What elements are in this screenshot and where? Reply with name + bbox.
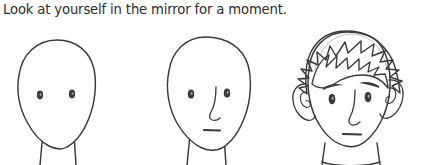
right-eye-highlight bbox=[72, 92, 74, 95]
figure-complete-face bbox=[279, 22, 423, 165]
figure-blank-face bbox=[2, 22, 134, 165]
left-eye-highlight bbox=[332, 97, 334, 100]
mouth bbox=[204, 130, 220, 131]
head-outline bbox=[308, 32, 390, 147]
left-eye-highlight bbox=[191, 92, 193, 95]
left-eye-highlight bbox=[40, 93, 42, 96]
mouth bbox=[343, 134, 361, 135]
caption-text: Look at yourself in the mirror for a mom… bbox=[3, 1, 419, 18]
figure-partial-face bbox=[148, 22, 283, 165]
hair-fringe bbox=[312, 55, 388, 88]
right-eyebrow bbox=[359, 82, 379, 88]
right-eye-highlight bbox=[368, 95, 370, 98]
right-eye-highlight bbox=[227, 91, 229, 94]
head-outline bbox=[18, 40, 95, 149]
left-eyebrow bbox=[323, 84, 343, 90]
left-ear bbox=[293, 84, 315, 120]
figure-row bbox=[0, 22, 423, 165]
nose bbox=[349, 90, 360, 125]
head-outline bbox=[167, 37, 250, 150]
comic-panel: Look at yourself in the mirror for a mom… bbox=[0, 0, 423, 165]
collar-bottom bbox=[322, 162, 380, 165]
